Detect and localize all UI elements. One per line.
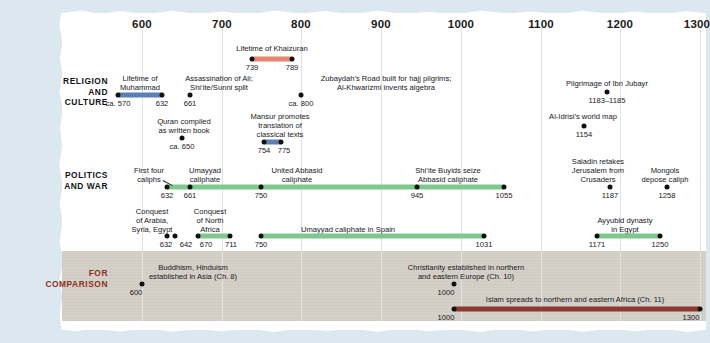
event-buyids-end-year: 1055: [496, 191, 513, 200]
event-conquest-arabia-line1: Conquest: [136, 207, 169, 216]
event-conquest-africa-end-year: 711: [225, 240, 237, 249]
row-label-politics-line1: POLITICS: [28, 170, 108, 181]
event-buyids-start-dot: [415, 185, 420, 190]
event-khaizuran-end-dot: [290, 57, 295, 62]
event-khaizuran-start-dot: [250, 57, 255, 62]
row-label-comparison-line1: FOR: [18, 268, 108, 279]
event-umayyad-spain-bar: [261, 234, 484, 239]
event-first-four-caliphs-year: 632: [161, 191, 174, 200]
event-saladin-line3: Crusaders: [580, 175, 615, 184]
event-buyids-start-year: 945: [411, 191, 424, 200]
event-buyids-line1: Shi‘ite Buyids seize: [415, 166, 480, 175]
event-united-abbasid-line1: United Abbasid: [271, 166, 322, 175]
axis-tick-1300: 1300: [684, 18, 710, 30]
event-zubaydah-year: ca. 800: [289, 99, 314, 108]
event-ibn-jubayr-year: 1183–1185: [589, 96, 626, 105]
axis-tick-1000: 1000: [448, 18, 474, 30]
event-united-abbasid-year: 750: [255, 191, 268, 200]
row-label-religion-line2: AND: [28, 87, 108, 98]
event-quran-year: ca. 650: [170, 142, 195, 151]
event-ayyubid-line1: Ayyubid dynasty: [597, 216, 652, 225]
row-label-religion-and-culture: RELIGION AND CULTURE: [28, 76, 108, 108]
event-muhammad-bar: [118, 93, 162, 98]
event-ibn-jubayr-title: Pilgrimage of Ibn Jubayr: [566, 79, 648, 88]
event-islam-africa-start-year: 1000: [438, 313, 455, 322]
axis-tick-800: 800: [291, 18, 311, 30]
event-united-abbasid-dot: [259, 185, 264, 190]
event-christianity-line2: and eastern Europe (Ch. 10): [418, 272, 514, 281]
event-mansur-title-line3: classical texts: [257, 130, 304, 139]
event-islam-africa-end-dot: [698, 307, 703, 312]
axis-tick-700: 700: [212, 18, 232, 30]
event-quran-dot: [180, 136, 185, 141]
event-buyids-end-dot: [502, 185, 507, 190]
event-ayyubid-end-dot: [658, 234, 663, 239]
event-first-four-caliphs-dot: [165, 185, 170, 190]
event-saladin-year: 1187: [602, 191, 618, 200]
event-conquest-africa-line2: of North: [196, 216, 223, 225]
gridline-1100: [541, 28, 542, 321]
event-mongols-dot: [665, 185, 670, 190]
event-al-idrisi-year: 1154: [576, 130, 592, 139]
axis-tick-1100: 1100: [528, 18, 554, 30]
event-umayyad-spain-start-year: 750: [255, 240, 268, 249]
event-mansur-end-year: 775: [278, 146, 291, 155]
event-zubaydah-title-line2: Al-Khwarizmi invents algebra: [337, 83, 435, 92]
event-conquest-arabia-start-dot: [165, 234, 170, 239]
event-mongols-year: 1258: [659, 191, 676, 200]
event-ayyubid-start-dot: [595, 234, 600, 239]
event-conquest-africa-start-year: 670: [200, 240, 213, 249]
event-christianity-year: 1000: [438, 288, 455, 297]
axis-tick-600: 600: [132, 18, 152, 30]
event-buddhism-dot: [140, 282, 145, 287]
event-first-four-caliphs-line1: First four: [134, 166, 164, 175]
event-conquest-africa-end-dot: [228, 234, 233, 239]
event-conquest-arabia-end-dot: [173, 234, 178, 239]
event-khaizuran-start-year: 739: [246, 63, 259, 72]
event-umayyad-caliphate-line1: Umayyad: [189, 166, 221, 175]
event-conquest-arabia-end-year: 642: [180, 240, 193, 249]
gridline-1300: [700, 28, 701, 321]
event-islam-africa-bar: [454, 307, 700, 312]
event-ali-dot: [188, 93, 193, 98]
event-first-four-caliphs-line2: caliphs: [137, 175, 161, 184]
event-quran-title-line2: as written book: [158, 126, 209, 135]
event-muhammad-start-dot: [116, 93, 121, 98]
event-al-idrisi-title: Al-Idrisi’s world map: [549, 112, 617, 121]
event-christianity-dot: [452, 282, 457, 287]
row-label-politics-and-war: POLITICS AND WAR: [28, 170, 108, 191]
event-buddhism-line2: established in Asia (Ch. 8): [149, 272, 237, 281]
event-ibn-jubayr-dot: [605, 90, 610, 95]
event-conquest-africa-bar: [198, 234, 230, 239]
event-buddhism-line1: Buddhism, Hinduism: [158, 263, 228, 272]
event-muhammad-end-dot: [160, 93, 165, 98]
event-khaizuran-end-year: 789: [286, 63, 299, 72]
row-label-religion-line1: RELIGION: [28, 76, 108, 87]
event-saladin-line1: Saladin retakes: [572, 157, 624, 166]
event-ali-title-line1: Assassination of Ali;: [185, 74, 253, 83]
event-quran-title-line1: Quran compiled: [157, 117, 211, 126]
event-khaizuran-title: Lifetime of Khaizuran: [236, 44, 307, 53]
row-label-religion-line3: CULTURE: [28, 97, 108, 108]
event-mansur-title-line2: translation of: [258, 121, 301, 130]
event-conquest-africa-start-dot: [196, 234, 201, 239]
row-label-politics-line2: AND WAR: [28, 181, 108, 192]
row-label-for-comparison: FOR COMPARISON: [18, 268, 108, 289]
event-mansur-title-line1: Mansur promotes: [250, 112, 309, 121]
event-khaizuran-bar: [252, 57, 292, 62]
event-ayyubid-start-year: 1171: [589, 240, 605, 249]
event-ali-year: 661: [184, 99, 197, 108]
event-united-abbasid-line2: caliphate: [282, 175, 312, 184]
event-ali-title-line2: Shi‘ite/Sunni split: [190, 83, 248, 92]
politics-caliphate-span-bar: [167, 185, 504, 190]
axis-tick-900: 900: [371, 18, 391, 30]
event-islam-africa-start-dot: [452, 307, 457, 312]
event-ayyubid-bar: [597, 234, 660, 239]
event-zubaydah-title-line1: Zubaydah’s Road built for hajj pilgrims;: [321, 74, 452, 83]
event-mongols-line2: depose caliph: [642, 175, 689, 184]
event-umayyad-caliphate-dot: [188, 185, 193, 190]
event-islam-africa-title: Islam spreads to northern and eastern Af…: [486, 295, 664, 304]
event-umayyad-caliphate-year: 661: [184, 191, 197, 200]
